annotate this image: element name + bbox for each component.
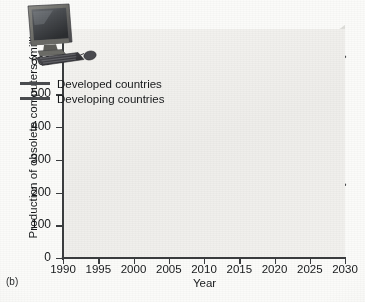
y-tick-mark: [56, 160, 63, 161]
chart-legend: Developed countries Developing countries: [20, 76, 164, 106]
y-tick-label: 200: [11, 185, 51, 199]
x-tick-label: 2020: [255, 263, 295, 275]
legend-swatch-developing: [20, 97, 50, 100]
legend-item-developed: Developed countries: [20, 76, 164, 91]
y-tick-label: 0: [11, 250, 51, 264]
y-tick-label: 300: [11, 152, 51, 166]
figure-panel-b: Production of obsolete computers (millio…: [0, 0, 365, 302]
x-tick-label: 2000: [114, 263, 154, 275]
legend-label-developed: Developed countries: [57, 78, 162, 90]
x-tick-label: 2010: [184, 263, 224, 275]
x-tick-label: 1995: [78, 263, 118, 275]
y-tick-mark: [56, 258, 63, 259]
legend-swatch-developed: [20, 82, 50, 85]
y-tick-mark: [56, 193, 63, 194]
x-tick-label: 1990: [43, 263, 83, 275]
x-tick-label: 2015: [219, 263, 259, 275]
panel-label: (b): [6, 276, 18, 287]
legend-item-developing: Developing countries: [20, 91, 164, 106]
y-tick-label: 400: [11, 119, 51, 133]
x-tick-label: 2030: [325, 263, 365, 275]
x-tick-label: 2005: [149, 263, 189, 275]
crt-computer-photo-icon: [22, 2, 110, 74]
y-tick-label: 100: [11, 217, 51, 231]
x-axis-title: Year: [63, 277, 346, 289]
x-tick-label: 2025: [290, 263, 330, 275]
y-tick-mark: [56, 127, 63, 128]
y-tick-mark: [56, 225, 63, 226]
legend-label-developing: Developing countries: [57, 93, 164, 105]
